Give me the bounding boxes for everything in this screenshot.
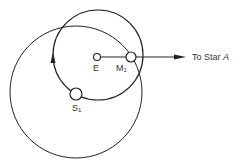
orbit-direction-arrow-icon	[51, 52, 56, 63]
sun-label: S1	[72, 104, 81, 113]
star-label: To Star A	[192, 53, 229, 62]
star-direction-arrowhead-icon	[174, 55, 186, 60]
earth-label: E	[93, 64, 99, 73]
moon-label: M1	[116, 64, 127, 73]
earth-marker	[94, 54, 101, 61]
orbit-diagram	[0, 0, 244, 161]
sun-marker	[70, 88, 82, 100]
moon-marker	[126, 52, 136, 62]
